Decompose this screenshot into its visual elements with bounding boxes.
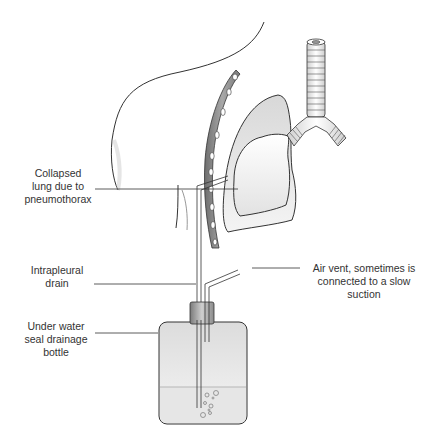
drainage-bottle [159, 270, 247, 424]
label-under-water-seal: Under water seal drainage bottle [20, 320, 92, 359]
label-intrapleural-drain: Intrapleural drain [22, 264, 92, 290]
label-collapsed-lung: Collapsed lung due to pneumothorax [18, 167, 98, 206]
diagram-illustration [0, 0, 431, 439]
label-air-vent: Air vent, sometimes is connected to a sl… [302, 262, 426, 301]
lung [223, 95, 296, 232]
trachea [287, 39, 346, 146]
